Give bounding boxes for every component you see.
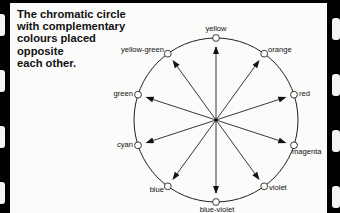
label-green: green (114, 89, 133, 98)
node-orange (261, 50, 268, 57)
arrow-red (216, 97, 285, 120)
label-cyan: cyan (117, 140, 133, 149)
arrow-violet (216, 120, 259, 179)
label-blue: blue (150, 185, 164, 194)
node-blue (164, 183, 171, 190)
arrow-green (147, 97, 216, 120)
node-yellow-green (164, 50, 171, 57)
label-magenta: magenta (292, 147, 322, 156)
label-orange: orange (268, 45, 292, 54)
label-blue-violet: blue-violet (200, 205, 236, 213)
center-dot (214, 118, 218, 122)
arrow-cyan (147, 120, 216, 143)
arrow-orange (216, 61, 259, 120)
label-yellow: yellow (205, 24, 227, 33)
node-cyan (135, 142, 142, 149)
node-green (135, 91, 142, 98)
arrow-blue (173, 120, 216, 179)
arrow-yellow-green (173, 61, 216, 120)
label-red: red (299, 89, 310, 98)
arrow-magenta (216, 120, 285, 143)
node-violet (261, 183, 268, 190)
label-violet: violet (269, 183, 288, 192)
node-red (291, 91, 298, 98)
node-yellow (213, 35, 220, 42)
label-yellow-green: yellow-green (121, 45, 164, 54)
